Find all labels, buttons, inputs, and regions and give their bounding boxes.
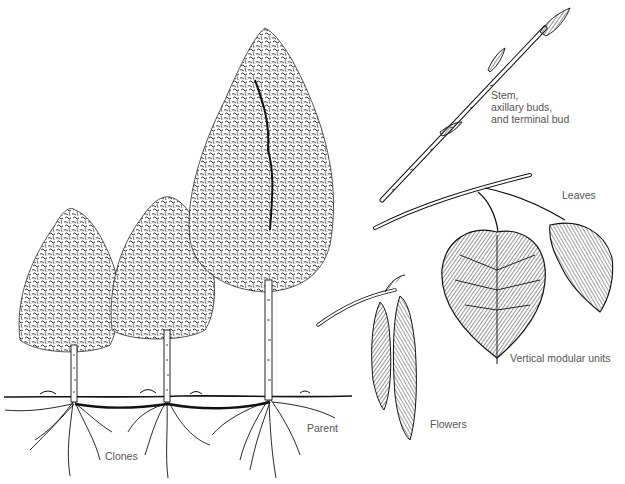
clones-label: Clones bbox=[105, 450, 138, 462]
vertical-modular-units-label: Vertical modular units bbox=[510, 352, 610, 364]
flowers-illustration bbox=[318, 275, 416, 440]
ground-line bbox=[4, 390, 352, 398]
leaves-label: Leaves bbox=[562, 189, 596, 201]
stem-label-line-3: and terminal bud bbox=[491, 113, 569, 125]
illustration-canvas: Stem, axillary buds, and terminal bud Le… bbox=[0, 0, 625, 484]
parent-label: Parent bbox=[307, 422, 338, 434]
axillary-bud-upper bbox=[488, 48, 505, 72]
clone-tree-1 bbox=[19, 208, 119, 402]
side-leaf bbox=[550, 223, 613, 312]
stem-label: Stem, axillary buds, and terminal bud bbox=[491, 89, 569, 125]
stem-label-line-1: Stem, bbox=[491, 89, 569, 101]
illustration-drawing bbox=[0, 0, 625, 484]
main-leaf bbox=[442, 230, 545, 358]
catkin-left bbox=[372, 302, 391, 410]
rhizome-connection bbox=[75, 402, 270, 408]
roots bbox=[5, 400, 335, 478]
stem-label-line-2: axillary buds, bbox=[491, 101, 569, 113]
catkin-right bbox=[393, 296, 416, 440]
parent-tree bbox=[189, 28, 333, 400]
terminal-bud bbox=[540, 8, 570, 36]
flowers-label: Flowers bbox=[430, 418, 467, 430]
